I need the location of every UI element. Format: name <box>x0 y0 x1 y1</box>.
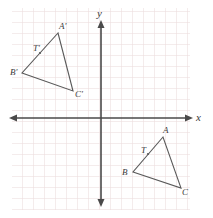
vertex-label-c-prime: C' <box>75 90 83 99</box>
coordinate-plane-figure: y x A' B' C' T' A B C T <box>0 0 213 218</box>
vertex-label-a: A <box>163 126 169 135</box>
vertex-label-b: B <box>122 168 128 177</box>
side-label-t: T <box>141 146 146 155</box>
y-axis-label: y <box>97 8 102 19</box>
vertex-label-a-prime: A' <box>59 22 66 31</box>
side-midpoint-marker <box>147 153 149 155</box>
vertex-label-c: C <box>182 188 188 197</box>
vertex-label-b-prime: B' <box>10 68 17 77</box>
plot-canvas <box>0 0 213 218</box>
side-label-t-prime: T' <box>33 44 40 53</box>
x-axis-label: x <box>196 112 201 123</box>
